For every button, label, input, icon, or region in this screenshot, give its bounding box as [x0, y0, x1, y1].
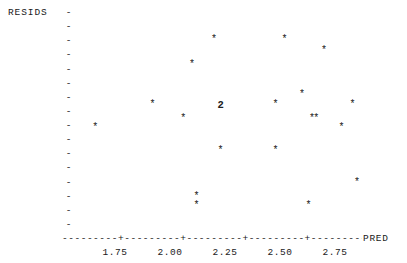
data-point: *	[299, 90, 305, 100]
data-point: *	[211, 35, 217, 45]
data-point: *	[92, 123, 98, 133]
x-tick-label: 2.50	[268, 247, 293, 259]
data-point: *	[339, 123, 345, 133]
data-point: *	[321, 46, 327, 56]
x-axis-line: ---------+---------+---------+---------+…	[62, 233, 362, 245]
x-tick-label: 2.25	[213, 247, 238, 259]
data-point: *	[313, 114, 319, 124]
data-point: *	[350, 100, 356, 110]
x-axis-label: PRED	[363, 233, 389, 245]
x-tick-label: 2.75	[323, 247, 348, 259]
data-point: *	[354, 178, 360, 188]
scatter-plot-area: *******2************	[0, 0, 407, 263]
data-point-overlap: 2	[217, 100, 223, 110]
data-point: *	[281, 35, 287, 45]
data-point: *	[273, 146, 279, 156]
data-point: *	[273, 100, 279, 110]
residual-plot: RESIDS ---------------- *******2********…	[0, 0, 407, 263]
data-point: *	[306, 201, 312, 211]
data-point: *	[218, 146, 224, 156]
data-point: *	[149, 100, 155, 110]
data-point: *	[193, 201, 199, 211]
x-tick-label: 2.00	[158, 247, 183, 259]
data-point: *	[189, 60, 195, 70]
x-tick-label: 1.75	[103, 247, 128, 259]
data-point: *	[180, 114, 186, 124]
